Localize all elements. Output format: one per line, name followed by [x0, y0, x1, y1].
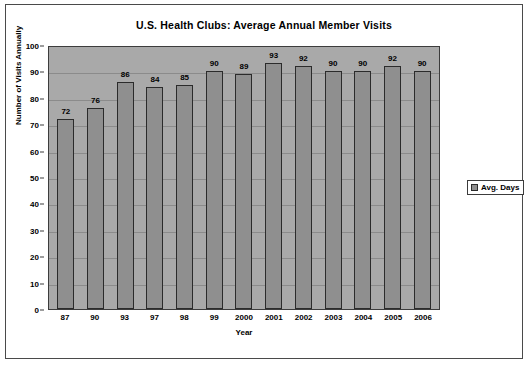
bar-2003[interactable]: 90 [325, 71, 342, 309]
bar-2006[interactable]: 90 [414, 71, 431, 309]
x-axis-tick-97: 97 [140, 313, 170, 322]
x-axis-tick-2006: 2006 [408, 313, 438, 322]
y-axis-tick-mark [40, 204, 44, 205]
chart-frame: U.S. Health Clubs: Average Annual Member… [5, 4, 523, 359]
bar-2004[interactable]: 90 [354, 71, 371, 309]
bar-slot: 93 [259, 47, 289, 309]
x-axis-tick-2002: 2002 [289, 313, 319, 322]
x-axis-tick-2000: 2000 [229, 313, 259, 322]
y-axis-tick-50: 50 [30, 174, 39, 183]
bar-value-label: 92 [299, 54, 308, 63]
bar-97[interactable]: 84 [146, 87, 163, 309]
y-axis-tick-60: 60 [30, 147, 39, 156]
bar-slot: 90 [407, 47, 437, 309]
bar-slot: 89 [229, 47, 259, 309]
y-axis-tick-mark [40, 230, 44, 231]
y-axis-tick-80: 80 [30, 94, 39, 103]
x-axis-tick-labels: 8790939798992000200120022003200420052006 [48, 313, 440, 322]
y-axis-tick-mark [40, 98, 44, 99]
bar-slot: 92 [289, 47, 319, 309]
bar-value-label: 93 [269, 51, 278, 60]
bar-value-label: 90 [358, 59, 367, 68]
x-axis-tick-2001: 2001 [259, 313, 289, 322]
bar-2001[interactable]: 93 [265, 63, 282, 309]
y-axis-tick-mark [40, 310, 44, 311]
bar-90[interactable]: 76 [87, 108, 104, 309]
y-axis-tick-mark [40, 125, 44, 126]
bar-slot: 90 [199, 47, 229, 309]
y-axis-tick-40: 40 [30, 200, 39, 209]
bar-98[interactable]: 85 [176, 85, 193, 309]
y-axis-tick-mark [40, 72, 44, 73]
y-axis-tick-30: 30 [30, 226, 39, 235]
y-axis-tick-20: 20 [30, 253, 39, 262]
bar-slot: 84 [140, 47, 170, 309]
x-axis-title: Year [48, 328, 440, 337]
bar-slot: 92 [378, 47, 408, 309]
y-axis-tick-mark [40, 283, 44, 284]
y-axis-tick-70: 70 [30, 121, 39, 130]
bars-layer: 72768684859089939290909290 [49, 47, 439, 309]
bar-value-label: 84 [150, 75, 159, 84]
bar-value-label: 89 [240, 62, 249, 71]
y-axis-tick-0: 0 [35, 306, 39, 315]
bar-93[interactable]: 86 [117, 82, 134, 309]
y-axis-tick-mark [40, 46, 44, 47]
chart-legend: Avg. Days [467, 180, 524, 195]
bar-2005[interactable]: 92 [384, 66, 401, 309]
bar-slot: 72 [51, 47, 81, 309]
bar-value-label: 90 [210, 59, 219, 68]
x-axis-tick-93: 93 [110, 313, 140, 322]
y-axis-tick-10: 10 [30, 279, 39, 288]
bar-value-label: 85 [180, 73, 189, 82]
bar-value-label: 90 [329, 59, 338, 68]
bar-2000[interactable]: 89 [235, 74, 252, 309]
legend-swatch-avg-days [471, 184, 478, 191]
x-axis-tick-98: 98 [169, 313, 199, 322]
bar-99[interactable]: 90 [206, 71, 223, 309]
bar-value-label: 92 [388, 54, 397, 63]
y-axis-tick-mark [40, 257, 44, 258]
plot-area: 72768684859089939290909290 [48, 46, 440, 310]
bar-87[interactable]: 72 [57, 119, 74, 309]
y-axis-tick-labels: 1009080706050403020100 [6, 46, 44, 310]
bar-value-label: 90 [418, 59, 427, 68]
plot-wrapper: 72768684859089939290909290 [48, 46, 440, 310]
y-axis-tick-90: 90 [30, 68, 39, 77]
x-axis-tick-2004: 2004 [348, 313, 378, 322]
bar-2002[interactable]: 92 [295, 66, 312, 309]
y-axis-tick-mark [40, 178, 44, 179]
bar-slot: 86 [110, 47, 140, 309]
y-axis-tick-mark [40, 151, 44, 152]
chart-title: U.S. Health Clubs: Average Annual Member… [6, 19, 522, 31]
bar-value-label: 86 [121, 70, 130, 79]
y-axis-tick-100: 100 [26, 42, 39, 51]
bar-value-label: 76 [91, 96, 100, 105]
bar-value-label: 72 [61, 107, 70, 116]
bar-slot: 76 [81, 47, 111, 309]
bar-slot: 90 [318, 47, 348, 309]
legend-label-avg-days: Avg. Days [481, 183, 519, 192]
bar-slot: 85 [170, 47, 200, 309]
x-axis-tick-99: 99 [199, 313, 229, 322]
x-axis-tick-90: 90 [80, 313, 110, 322]
x-axis-tick-2005: 2005 [378, 313, 408, 322]
x-axis-tick-2003: 2003 [319, 313, 349, 322]
bar-slot: 90 [348, 47, 378, 309]
x-axis-tick-87: 87 [50, 313, 80, 322]
